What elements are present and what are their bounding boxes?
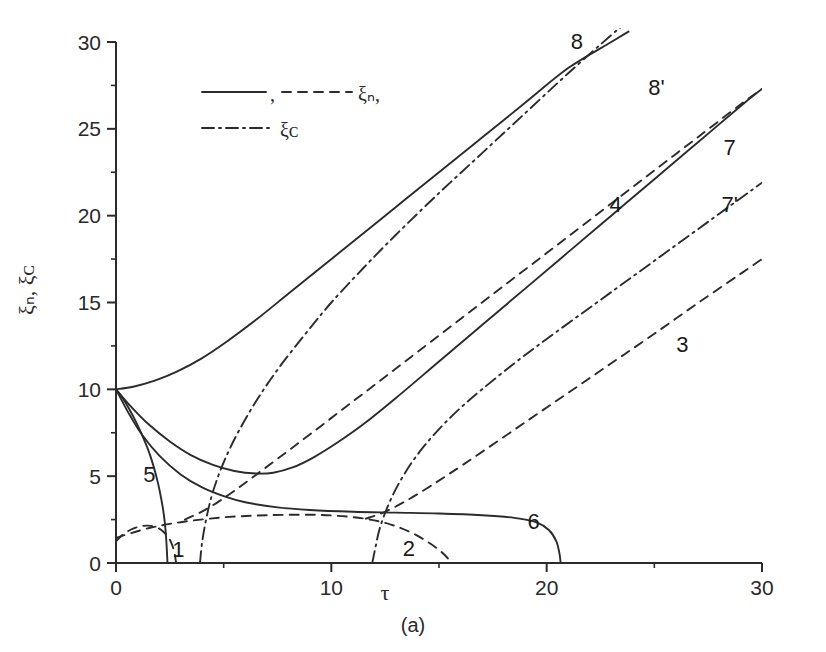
y-tick-label: 0	[89, 552, 101, 575]
curve-5	[116, 389, 167, 563]
x-tick-label: 0	[110, 576, 122, 599]
x-tick-label: 10	[320, 576, 343, 599]
figure-panel: 0510152025300102030 12345677'88' ,ξₙ,ξᴄ …	[0, 0, 826, 652]
curve-label-7-prime: 7'	[721, 192, 737, 217]
curve-7-prime	[372, 183, 762, 563]
y-tick-label: 30	[78, 31, 101, 54]
y-tick-label: 5	[89, 465, 101, 488]
y-tick-label: 20	[78, 204, 101, 227]
curve-8-prime	[200, 25, 624, 563]
chart-canvas: 0510152025300102030 12345677'88' ,ξₙ,ξᴄ …	[0, 0, 826, 652]
curve-label-8-prime: 8'	[648, 75, 664, 100]
curve-4	[185, 89, 762, 520]
curve-label-8: 8	[571, 29, 583, 54]
curve-label-2: 2	[403, 536, 415, 561]
y-tick-label: 25	[78, 117, 101, 140]
x-tick-label: 30	[750, 576, 773, 599]
y-axis-title: ξₙ, ξᴄ	[14, 265, 39, 315]
axes	[116, 42, 762, 563]
y-tick-label: 10	[78, 378, 101, 401]
curve-label-6: 6	[528, 509, 540, 534]
figure-caption: (a)	[401, 614, 425, 636]
x-axis-title: τ	[381, 580, 390, 605]
curve-7	[116, 89, 762, 474]
axis-ticks	[107, 42, 762, 572]
curve-label-5: 5	[143, 462, 155, 487]
legend: ,ξₙ,ξᴄ	[202, 83, 380, 141]
x-tick-label: 20	[535, 576, 558, 599]
curve-label-7: 7	[724, 135, 736, 160]
curve-label-4: 4	[609, 192, 621, 217]
legend-label-xi-n: ξₙ,	[358, 83, 380, 105]
legend-label-xi-c: ξᴄ	[280, 119, 298, 141]
curve-label-1: 1	[172, 537, 184, 562]
y-tick-label: 15	[78, 291, 101, 314]
curve-label-3: 3	[676, 332, 688, 357]
curve-3	[366, 259, 762, 519]
data-curves	[116, 25, 762, 563]
curve-labels: 12345677'88'	[143, 29, 738, 562]
legend-separator: ,	[270, 83, 275, 105]
